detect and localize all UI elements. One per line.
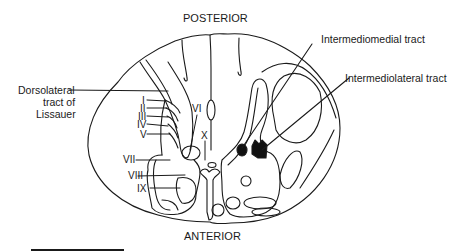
intermediomedial-tract-label: Intermediomedial tract xyxy=(321,33,425,45)
intermediolateral-tract-nucleus xyxy=(252,140,267,158)
dorsal-horn-left xyxy=(140,60,193,158)
lamina-viii-label: VIII xyxy=(128,170,143,181)
intermediomedial-tract-nucleus xyxy=(237,144,247,156)
lamina-v-label: V xyxy=(140,129,147,140)
posterior-label: POSTERIOR xyxy=(183,12,248,24)
lamina-ix-label: IX xyxy=(137,183,146,194)
lamina-vi-label: VI xyxy=(192,103,201,114)
lamina-x-label: X xyxy=(201,130,208,141)
dorsolateral-tract-label-line3: Lissauer xyxy=(36,108,76,120)
dorsolateral-tract-label-line1: Dorsolateral xyxy=(18,84,75,96)
dorsolateral-tract-label-line2: tract of xyxy=(43,96,75,108)
anterior-label: ANTERIOR xyxy=(184,230,241,242)
intermediolateral-tract-label: Intermediolateral tract xyxy=(345,72,447,84)
gray-right xyxy=(221,79,280,217)
lamina-vii-label: VII xyxy=(123,154,135,165)
outer-contour xyxy=(88,34,340,224)
